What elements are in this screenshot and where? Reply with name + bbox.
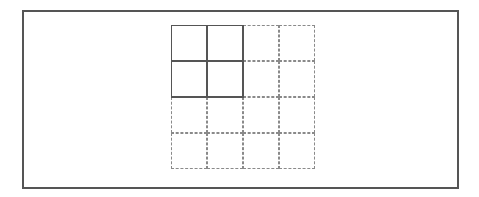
grid-cell-r4-c3[interactable] (243, 133, 279, 169)
grid-cell-r4-c1[interactable] (171, 133, 207, 169)
grid-cell-r1-c2-selected[interactable] (207, 25, 243, 61)
grid-cell-r3-c4[interactable] (279, 97, 315, 133)
grid-cell-r1-c1-selected[interactable] (171, 25, 207, 61)
grid-cell-r3-c1[interactable] (171, 97, 207, 133)
grid-cell-r2-c3[interactable] (243, 61, 279, 97)
grid-cell-r1-c4[interactable] (279, 25, 315, 61)
grid-cell-r2-c2-selected[interactable] (207, 61, 243, 97)
grid-cell-r4-c4[interactable] (279, 133, 315, 169)
grid-cell-r2-c4[interactable] (279, 61, 315, 97)
grid-cell-r2-c1-selected[interactable] (171, 61, 207, 97)
grid-cell-r1-c3[interactable] (243, 25, 279, 61)
table-size-grid[interactable] (171, 25, 315, 169)
grid-cell-r3-c3[interactable] (243, 97, 279, 133)
grid-cell-r3-c2[interactable] (207, 97, 243, 133)
grid-cell-r4-c2[interactable] (207, 133, 243, 169)
